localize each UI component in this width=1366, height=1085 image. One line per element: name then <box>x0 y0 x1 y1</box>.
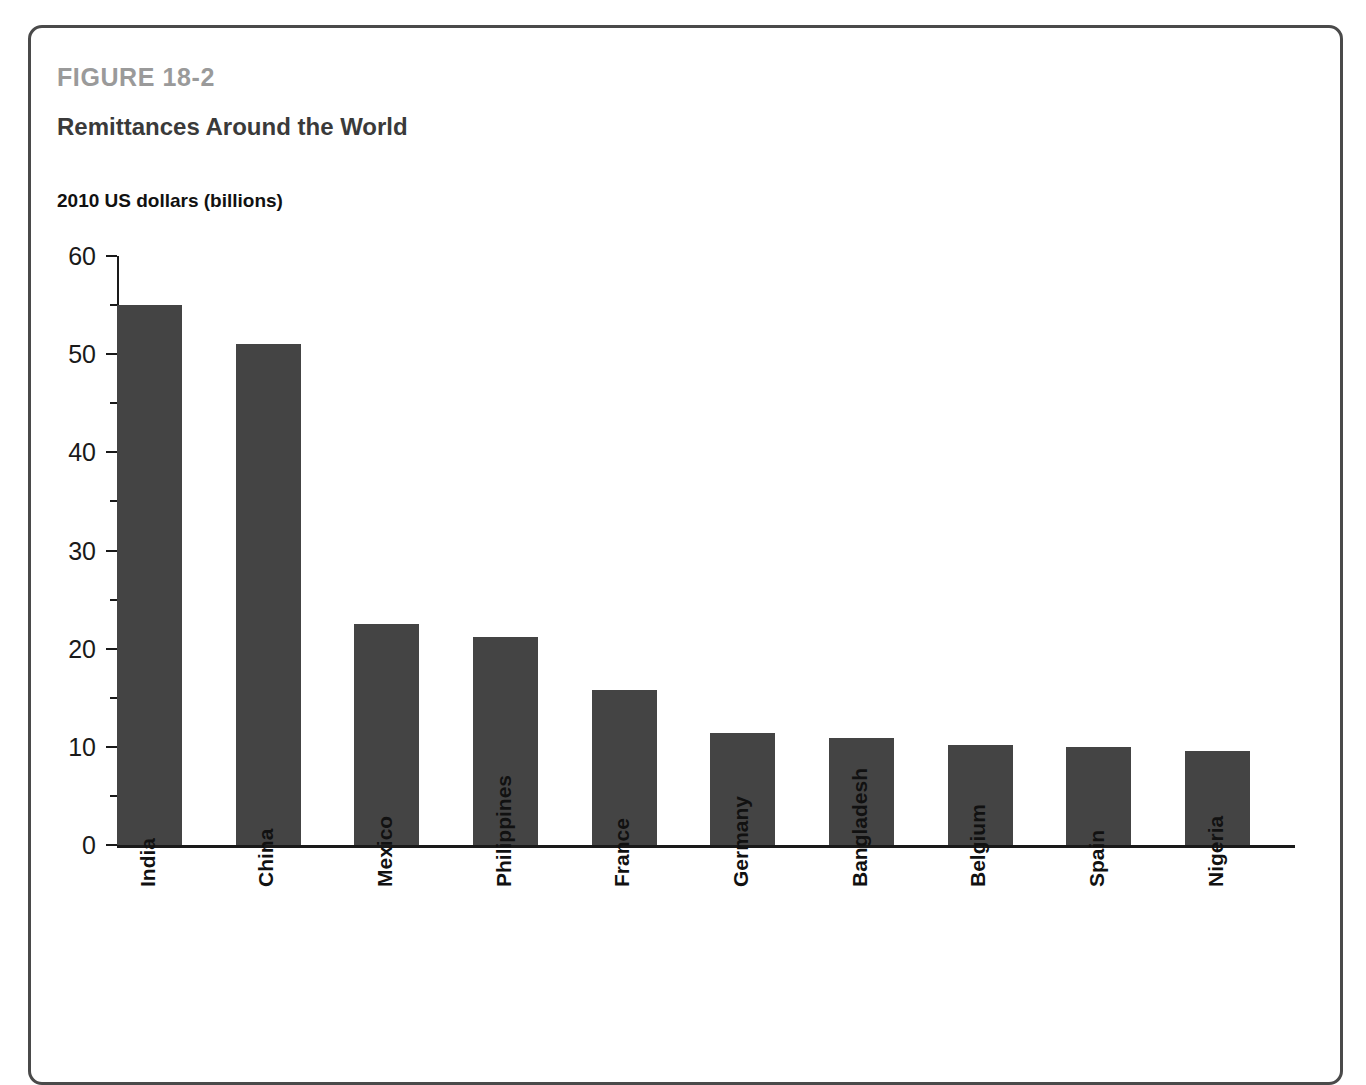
y-tick-major <box>106 451 117 453</box>
y-tick-minor <box>110 304 117 306</box>
y-tick-major <box>106 550 117 552</box>
y-tick-major <box>106 844 117 846</box>
y-tick-minor <box>110 500 117 502</box>
y-tick-minor <box>110 599 117 601</box>
y-tick-minor <box>110 402 117 404</box>
bar-india <box>117 305 182 845</box>
y-tick-label: 0 <box>36 831 96 860</box>
bar-mexico <box>354 624 419 845</box>
x-axis-label-spain: Spain <box>1085 830 1109 887</box>
x-axis-label-germany: Germany <box>729 796 753 887</box>
x-axis-label-india: India <box>136 838 160 887</box>
y-tick-label: 30 <box>36 536 96 565</box>
y-tick-label: 20 <box>36 634 96 663</box>
y-tick-minor <box>110 697 117 699</box>
y-tick-major <box>106 255 117 257</box>
x-axis-label-philippines: Philippines <box>492 775 516 887</box>
y-tick-major <box>106 746 117 748</box>
y-tick-major <box>106 353 117 355</box>
x-axis-label-mexico: Mexico <box>373 816 397 887</box>
y-tick-major <box>106 648 117 650</box>
bar-china <box>236 344 301 845</box>
x-axis-label-belgium: Belgium <box>966 804 990 887</box>
y-tick-label: 40 <box>36 438 96 467</box>
y-tick-label: 10 <box>36 732 96 761</box>
x-axis-label-china: China <box>254 829 278 887</box>
y-tick-label: 50 <box>36 340 96 369</box>
y-tick-label: 60 <box>36 242 96 271</box>
x-axis-line <box>117 845 1295 848</box>
y-tick-minor <box>110 795 117 797</box>
x-axis-label-france: France <box>610 818 634 887</box>
x-axis-label-bangladesh: Bangladesh <box>848 768 872 887</box>
x-axis-label-nigeria: Nigeria <box>1204 816 1228 887</box>
